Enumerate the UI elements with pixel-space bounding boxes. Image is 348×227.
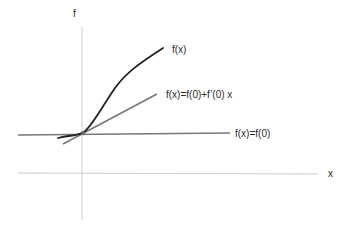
x-axis-label: x [328, 169, 333, 179]
constant-line-label: f(x)=f(0) [235, 129, 270, 139]
diagram-canvas [0, 0, 348, 227]
tangent-line [63, 94, 157, 144]
origin-point [81, 131, 85, 135]
function-label: f(x) [172, 45, 186, 55]
x-axis [18, 173, 318, 174]
tangent-line-label: f(x)=f(0)+f’(0) x [166, 90, 232, 100]
constant-line [18, 133, 230, 135]
y-axis-label: f [73, 9, 76, 19]
function-curve [58, 48, 163, 138]
